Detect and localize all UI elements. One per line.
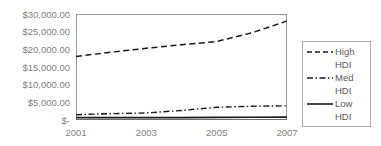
legend-label-low-hdi-line1: Low [334,98,352,109]
line-chart: $30,000.00$25,000.00$20,000.00$15,000.00… [0,0,381,146]
legend-swatch-dash-dot-icon [306,73,334,83]
x-axis-tick-label: 2005 [206,128,227,138]
x-axis-tick-label: 2007 [276,128,297,138]
legend-swatch-dashed-icon [306,47,334,57]
legend-swatch-solid-icon [306,99,334,109]
legend-item-low-hdi: Low [306,98,368,111]
legend-label-med-hdi-line2: HDI [306,85,368,98]
legend-label-high-hdi-line2: HDI [306,59,368,72]
legend-item-med-hdi: Med [306,72,368,85]
x-axis-tick-label: 2003 [136,128,157,138]
legend-label-high-hdi-line1: High [334,46,355,57]
legend-label-med-hdi-line1: Med [334,72,353,83]
legend-item-high-hdi: High [306,46,368,59]
legend-label-low-hdi-line2: HDI [306,111,368,124]
x-axis-tick-label: 2001 [65,128,86,138]
chart-legend: High HDI Med HDI Low HDI [302,41,371,127]
